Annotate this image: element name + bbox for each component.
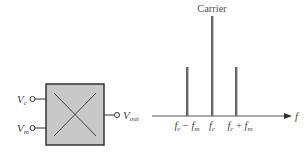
tick-label-lower: fc − fm — [174, 120, 199, 133]
tick-label-upper: fc + fm — [227, 120, 252, 133]
vm-label: Vm — [17, 122, 29, 136]
carrier-label: Carrier — [197, 3, 227, 14]
mixer-spectrum-diagram: Vc Vm Vout f Carrier fc − fm fc fc + fm — [0, 0, 308, 155]
spectrum-plot: f Carrier fc − fm fc fc + fm — [152, 3, 300, 133]
vout-label: Vout — [123, 109, 140, 123]
vc-label: Vc — [17, 93, 28, 107]
input-terminal-vm — [30, 126, 35, 131]
tick-label-carrier: fc — [209, 120, 216, 133]
output-terminal — [115, 113, 120, 118]
lower-sideband-bar — [186, 67, 188, 116]
axis-label: f — [295, 110, 300, 122]
input-terminal-vc — [30, 97, 35, 102]
carrier-bar — [211, 16, 213, 116]
upper-sideband-bar — [235, 67, 237, 116]
mixer-block: Vc Vm Vout — [17, 84, 140, 145]
axis-arrow-icon — [284, 113, 292, 119]
diagram-canvas: Vc Vm Vout f Carrier fc − fm fc fc + fm — [0, 0, 308, 155]
